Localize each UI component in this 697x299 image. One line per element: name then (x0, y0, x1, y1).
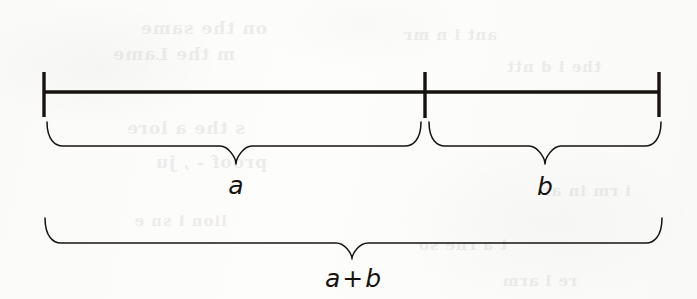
segment-diagram-svg (0, 0, 697, 299)
label-a: a (228, 171, 243, 200)
segment-group (44, 72, 659, 118)
figure-canvas: on the samem the Lameant i n mrthe i d n… (0, 0, 697, 299)
plus-operator: + (340, 264, 365, 293)
sum-term-left: a (325, 264, 340, 293)
brace-b (429, 122, 661, 164)
sum-term-right: b (365, 264, 381, 293)
label-b: b (537, 172, 553, 201)
brace-a (47, 122, 421, 164)
brace-group (45, 122, 662, 259)
label-a-plus-b: a+b (325, 264, 381, 293)
brace-total (45, 218, 662, 259)
